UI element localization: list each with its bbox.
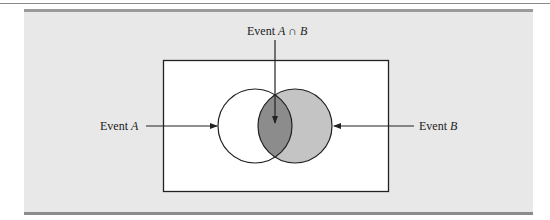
event-a-label: Event A: [100, 119, 139, 133]
venn-diagram: Event A ∩ B Event A Event B: [0, 0, 550, 220]
intersection-label: Event A ∩ B: [247, 24, 308, 38]
event-b-label: Event B: [419, 119, 458, 133]
